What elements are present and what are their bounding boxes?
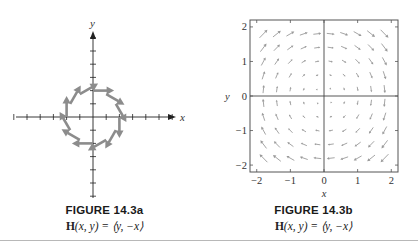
field-vector-arrow [301,46,307,49]
field-vector-arrow [300,32,308,35]
field-vector-arrow [88,140,106,151]
field-vector-arrow [275,114,278,120]
field-vector-arrow [356,114,359,118]
field-vector-arrow [262,85,265,93]
field-vector-arrow [288,128,292,132]
formula-body: (x, y) = ⟨y, −x⟩ [284,220,352,232]
field-vector-arrow [327,157,335,160]
field-vector-arrow [315,129,319,131]
field-vector-arrow [381,154,389,162]
field-vector-arrow [273,31,281,37]
field-vector-arrow [370,114,373,120]
field-vector-arrow [275,58,279,64]
field-vector-arrow [313,157,321,160]
y-tick-label: −2 [236,160,247,171]
field-vector-arrow [260,30,268,38]
field-vector-arrow [383,85,386,93]
field-vector-arrow [355,128,359,132]
field-vector-arrow [316,74,319,76]
field-vector-arrow [260,44,266,52]
field-vector-arrow [329,116,332,118]
y-tick-label: −1 [236,125,247,136]
field-vector-arrow [62,96,70,117]
field-vector-arrow [106,94,124,105]
field-vector-arrow [303,88,305,91]
field-vector-arrow [276,72,279,78]
field-vector-arrow [342,60,346,63]
field-vector-arrow [289,73,292,77]
figure-formula: H(x, y) = ⟨y, −x⟩ [0,219,209,233]
field-vector-arrow [70,86,81,104]
field-vector-arrow [355,45,361,49]
field-vector-arrow [383,71,386,79]
field-vector-arrow [357,101,359,105]
field-vector-arrow [303,102,305,105]
field-vector-arrow [343,88,345,91]
field-vector-arrow [315,60,319,62]
x-axis-label: x [179,111,185,123]
field-vector-arrow [368,141,374,147]
y-axis-label: y [224,91,230,102]
x-tick-label: 2 [389,175,394,186]
field-vector-arrow [72,139,93,147]
field-vector-arrow [80,84,98,95]
field-vector-arrow [261,57,265,65]
field-vector-arrow [116,104,127,122]
field-vector-arrow [355,59,359,63]
figure-caption: FIGURE 14.3a [0,204,209,216]
field-vector-arrow [274,141,280,147]
field-vector-arrow [289,87,291,91]
field-vector-arrow [356,73,359,77]
field-vector-arrow [383,99,386,107]
field-vector-arrow [261,127,265,135]
field-vector-arrow [381,30,389,38]
formula-field-name: H [66,220,75,232]
field-vector-arrow [381,44,387,52]
field-vector-arrow [276,100,278,106]
y-tick-label: 0 [242,91,247,102]
page-divider [0,240,418,241]
figure-formula: H(x, y) = ⟨y, −x⟩ [209,219,418,233]
field-vector-arrow [330,101,332,103]
field-vector-arrow [317,102,319,104]
figure-14-3b: −2−1012210−1−2xy FIGURE 14.3b H(x, y) = … [209,0,418,240]
x-tick-label: −2 [251,175,262,186]
y-tick-label: 1 [242,56,247,67]
field-vector-arrow [105,130,116,148]
field-vector-arrow [289,101,291,105]
field-vector-arrow [260,140,266,148]
field-vector-arrow [381,140,387,148]
field-vector-arrow [316,89,318,91]
x-tick-label: 1 [355,175,360,186]
field-vector-arrow [370,86,372,92]
field-vector-arrow [93,86,114,94]
field-vector-arrow [382,57,386,65]
field-vector-arrow [302,129,306,132]
x-tick-label: 0 [321,175,326,186]
vector-field-plot-grid: −2−1012210−1−2xy [209,0,418,200]
field-vector-arrow [288,59,292,63]
field-vector-arrow [340,32,348,35]
field-vector-arrow [367,31,375,37]
field-vector-arrow [300,156,308,159]
field-vector-arrow [357,87,359,91]
formula-body: (x, y) = ⟨y, −x⟩ [75,220,143,232]
field-vector-arrow [262,71,265,79]
y-axis-label: y [89,17,95,29]
field-vector-arrow [301,143,307,146]
field-vector-arrow [303,74,306,77]
field-vector-arrow [274,44,280,50]
field-vector-arrow [286,156,294,160]
field-vector-arrow [329,61,333,63]
figure-caption: FIGURE 14.3b [209,204,418,216]
field-vector-arrow [341,46,347,49]
field-vector-arrow [355,142,361,146]
vector-field-plot-circle: xy [0,0,209,205]
field-vector-arrow [329,74,332,76]
field-vector-arrow [314,46,320,48]
field-vector-arrow [354,156,362,160]
field-vector-arrow [368,44,374,50]
field-vector-arrow [275,127,279,133]
field-vector-arrow [316,116,319,118]
field-vector-arrow [329,130,333,132]
